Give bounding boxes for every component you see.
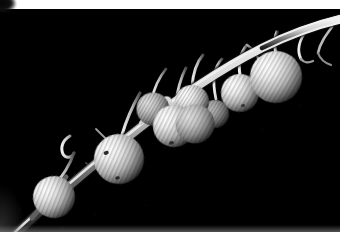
photo-scene [0,9,340,232]
photograph-frame: High contrast black and white macro phot… [0,0,348,232]
photo-border-right [340,0,348,232]
photo-border-top [0,0,348,9]
photo-image-area [0,9,340,232]
